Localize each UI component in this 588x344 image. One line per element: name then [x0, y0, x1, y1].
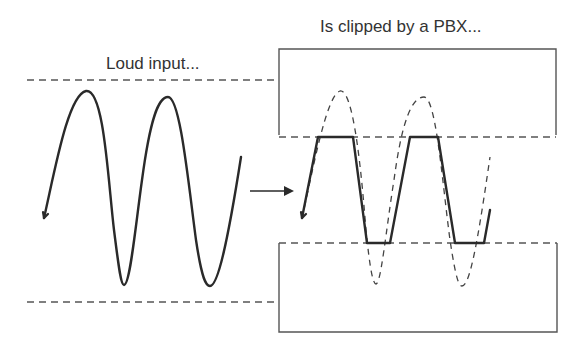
right-arrow-icon	[250, 186, 294, 196]
clipping-diagram: Loud input... Is clipped by a PBX...	[0, 0, 588, 344]
input-sine-wave	[44, 91, 241, 286]
clipped-wave	[302, 137, 490, 243]
diagram-canvas	[0, 0, 588, 344]
upper-clip-region	[279, 49, 556, 137]
original-wave-overlay	[302, 91, 490, 286]
lower-clip-region	[279, 243, 557, 332]
input-caption: Loud input...	[106, 55, 200, 72]
clipped-caption: Is clipped by a PBX...	[320, 18, 482, 35]
